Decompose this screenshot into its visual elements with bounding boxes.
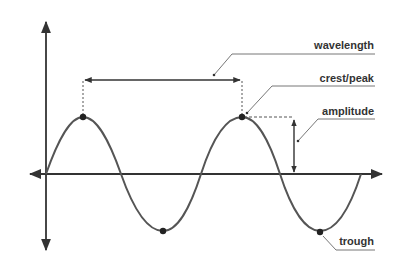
amplitude-leader <box>298 119 375 141</box>
wavelength-leader-dot <box>213 74 216 77</box>
amplitude-label: amplitude <box>322 105 374 117</box>
trough-point-1 <box>160 228 166 234</box>
wavelength-label: wavelength <box>314 39 374 51</box>
crest-label: crest/peak <box>320 72 374 84</box>
crest-point-1 <box>80 114 86 120</box>
crest-point-2 <box>239 114 245 120</box>
amplitude-leader-dot <box>297 140 300 143</box>
trough-point-2 <box>317 229 323 235</box>
trough-label: trough <box>339 235 374 247</box>
crest-leader-dot <box>246 112 249 115</box>
